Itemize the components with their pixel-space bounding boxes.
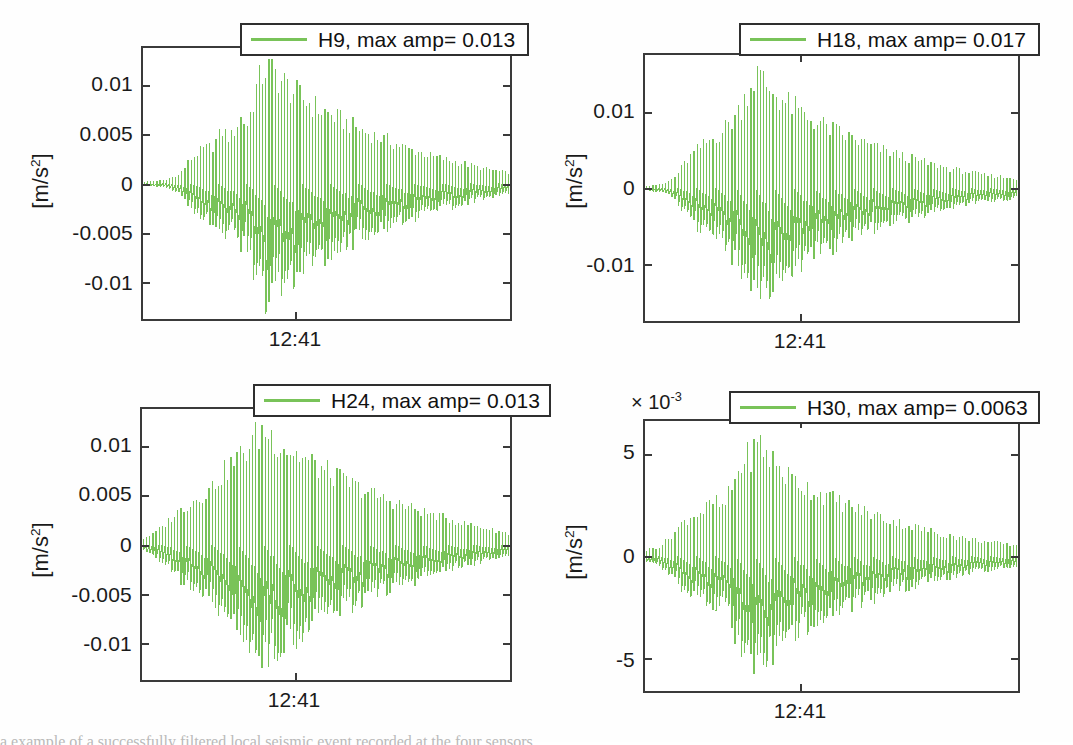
axes-box-h9 [141, 46, 512, 321]
y-tick-mark [143, 282, 150, 284]
y-tick-mark [645, 264, 652, 266]
y-tick-label: 0.01 [90, 433, 132, 457]
x-tick-label-h30: 12:41 [774, 699, 827, 723]
y-tick-label: 0.01 [91, 72, 133, 96]
y-axis-title-h18: [m/s2] [562, 136, 588, 226]
y-tick-mark [143, 134, 150, 136]
legend-label-h24: H24, max amp= 0.013 [331, 389, 540, 413]
y-tick-mark-right [503, 184, 510, 186]
waveform-plot-h18 [645, 55, 1018, 321]
y-tick-label: 0 [623, 176, 635, 200]
x-tick-mark-top [800, 55, 802, 62]
panel-h9: [m/s2] 0.01 0.005 0 -0.005 -0.01 [0, 0, 536, 371]
axes-box-h18 [643, 53, 1020, 323]
waveform-plot-h9 [143, 48, 510, 319]
y-axis-title-h24: [m/s2] [28, 505, 54, 595]
axes-box-h24 [140, 407, 512, 682]
x-tick-label-h9: 12:41 [269, 327, 322, 351]
y-tick-label: 0 [121, 172, 133, 196]
y-tick-mark [142, 446, 149, 448]
waveform-trace-h9 [145, 59, 509, 314]
y-tick-label: 0 [120, 533, 132, 557]
y-tick-mark [142, 495, 149, 497]
y-tick-label: 0.01 [593, 99, 635, 123]
y-tick-mark-right [1011, 112, 1018, 114]
y-tick-label: -0.005 [72, 221, 133, 245]
y-tick-mark [645, 112, 652, 114]
y-tick-mark [645, 188, 652, 190]
waveform-plot-h30 [645, 421, 1018, 691]
figure-caption-cropped: a example of a successfully filtered loc… [0, 733, 1073, 745]
y-tick-label: 0 [623, 544, 635, 568]
y-tick-mark-right [1011, 658, 1018, 660]
y-axis-title-h30: [m/s2] [562, 507, 588, 597]
legend-line-sample-h9 [251, 38, 307, 41]
legend-h9[interactable]: H9, max amp= 0.013 [240, 23, 529, 56]
y-tick-mark-right [503, 233, 510, 235]
waveform-trace-h24 [144, 422, 509, 668]
y-tick-mark-right [503, 545, 510, 547]
x-tick-label-h18: 12:41 [774, 329, 827, 353]
y-tick-mark-right [503, 282, 510, 284]
waveform-trace-h30 [647, 435, 1017, 674]
y-tick-label: 0.005 [79, 122, 133, 146]
legend-line-sample-h24 [264, 399, 320, 402]
x-tick-mark [800, 314, 802, 321]
y-tick-mark-right [503, 85, 510, 87]
y-tick-label: 0.005 [78, 482, 132, 506]
y-tick-mark [142, 545, 149, 547]
y-tick-mark [142, 643, 149, 645]
waveform-plot-h24 [142, 409, 510, 680]
y-tick-label: -0.01 [83, 632, 132, 656]
waveform-trace-h18 [647, 66, 1017, 300]
y-tick-mark-right [1011, 264, 1018, 266]
y-tick-mark-right [503, 134, 510, 136]
y-tick-mark-right [503, 446, 510, 448]
legend-h24[interactable]: H24, max amp= 0.013 [253, 384, 551, 417]
y-axis-title-h9: [m/s2] [28, 136, 54, 226]
legend-line-sample-h30 [740, 406, 796, 409]
legend-label-h30: H30, max amp= 0.0063 [807, 396, 1028, 420]
axes-box-h30 [643, 419, 1020, 693]
y-tick-label: -0.01 [84, 271, 133, 295]
legend-h30[interactable]: H30, max amp= 0.0063 [729, 391, 1040, 424]
legend-label-h18: H18, max amp= 0.017 [817, 28, 1026, 52]
y-tick-mark [142, 594, 149, 596]
y-tick-mark-right [503, 594, 510, 596]
y-tick-mark-right [503, 643, 510, 645]
y-tick-mark [143, 233, 150, 235]
x-tick-label-h24: 12:41 [268, 688, 321, 712]
y-tick-mark [645, 658, 652, 660]
legend-label-h9: H9, max amp= 0.013 [318, 28, 515, 52]
x-tick-mark [800, 684, 802, 691]
y-tick-label: -5 [616, 648, 635, 672]
y-axis-exponent-h30: × 10-3 [631, 391, 682, 414]
y-tick-mark-right [1011, 188, 1018, 190]
y-tick-mark [645, 556, 652, 558]
y-tick-mark-right [503, 495, 510, 497]
panel-h18: [m/s2] 0.01 0 -0.01 12:41 H18, m [536, 0, 1073, 371]
panel-h24: [m/s2] 0.01 0.005 0 -0.005 -0.01 [0, 371, 536, 742]
legend-line-sample-h18 [750, 38, 806, 41]
y-tick-mark [143, 85, 150, 87]
y-tick-mark-right [1011, 454, 1018, 456]
panel-h30: [m/s2] × 10-3 5 0 -5 12:41 [536, 371, 1073, 742]
y-tick-mark [645, 454, 652, 456]
y-tick-label: 5 [623, 440, 635, 464]
y-tick-label: -0.005 [71, 583, 132, 607]
y-tick-label: -0.01 [586, 253, 635, 277]
y-tick-mark-right [1011, 556, 1018, 558]
x-tick-mark [295, 673, 297, 680]
legend-h18[interactable]: H18, max amp= 0.017 [739, 23, 1040, 56]
x-tick-mark [295, 312, 297, 319]
y-tick-mark [143, 184, 150, 186]
